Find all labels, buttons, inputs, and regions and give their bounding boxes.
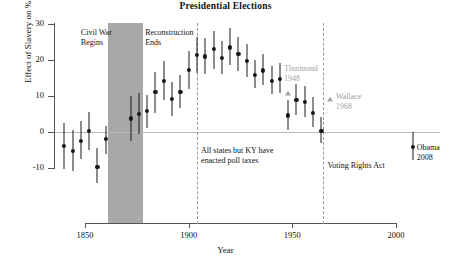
- third-party-marker: [327, 96, 333, 101]
- x-tick-1950: [292, 223, 293, 228]
- y-axis-line: [54, 23, 55, 169]
- x-tick-1850: [85, 223, 86, 228]
- chart-title: Presidential Elections: [0, 1, 451, 11]
- y-tick-0: [48, 132, 54, 133]
- annotation-voting-rights-act: Voting Rights Act: [328, 161, 385, 171]
- point-marker: [153, 90, 157, 94]
- event-line-1965: [323, 23, 324, 224]
- point-marker: [70, 149, 74, 153]
- x-axis-line: [85, 223, 396, 224]
- x-tick-label-1900: 1900: [180, 230, 197, 240]
- x-axis-label: Year: [0, 245, 451, 255]
- y-tick--10: [48, 168, 54, 169]
- x-tick-label-1850: 1850: [77, 230, 94, 240]
- y-tick-label-20: 20: [0, 54, 44, 64]
- annotation-wallace: Wallace 1968: [336, 92, 362, 112]
- annotation-poll-taxes: All states but KY have enacted poll taxe…: [201, 146, 274, 166]
- chart-canvas: Presidential Elections Effect of Slavery…: [0, 0, 451, 268]
- point-marker: [303, 100, 307, 104]
- point-marker: [145, 109, 149, 113]
- annotation-civil-war-begins: Civil War Begins: [81, 28, 112, 48]
- y-tick-label-10: 10: [0, 90, 44, 100]
- annotation-reconstruction-ends: Reconstruction Ends: [145, 28, 193, 48]
- point-marker: [236, 52, 240, 56]
- point-marker: [187, 68, 191, 72]
- point-marker: [195, 53, 199, 57]
- point-marker: [286, 113, 290, 117]
- y-tick-10: [48, 96, 54, 97]
- annotation-obama: Obama 2008: [417, 143, 440, 163]
- point-marker: [294, 98, 298, 102]
- point-marker: [79, 139, 83, 143]
- point-marker: [203, 54, 207, 58]
- x-tick-label-1950: 1950: [284, 230, 301, 240]
- point-marker: [62, 144, 66, 148]
- x-tick-1900: [189, 223, 190, 228]
- point-marker: [178, 90, 182, 94]
- point-marker: [311, 111, 315, 115]
- zero-reference-line: [55, 132, 440, 133]
- y-tick-20: [48, 60, 54, 61]
- annotation-thurmond: Thurmond 1948: [284, 64, 318, 84]
- y-axis-label: Effect of Slavery on % Democrat: [23, 0, 33, 103]
- point-marker: [170, 97, 174, 101]
- x-tick-2000: [396, 223, 397, 228]
- point-marker: [228, 45, 232, 49]
- point-marker: [245, 59, 249, 63]
- point-marker: [410, 145, 414, 149]
- third-party-marker: [285, 91, 291, 96]
- point-marker: [253, 73, 257, 77]
- y-tick-30: [48, 24, 54, 25]
- y-tick-label-0: 0: [0, 126, 44, 136]
- y-tick-label-30: 30: [0, 18, 44, 28]
- point-marker: [95, 165, 99, 169]
- y-tick-label--10: -10: [0, 162, 44, 172]
- point-marker: [162, 79, 166, 83]
- point-marker: [278, 77, 282, 81]
- point-marker: [211, 47, 215, 51]
- point-marker: [270, 79, 274, 83]
- point-marker: [220, 56, 224, 60]
- x-tick-label-2000: 2000: [388, 230, 405, 240]
- point-marker: [261, 68, 265, 72]
